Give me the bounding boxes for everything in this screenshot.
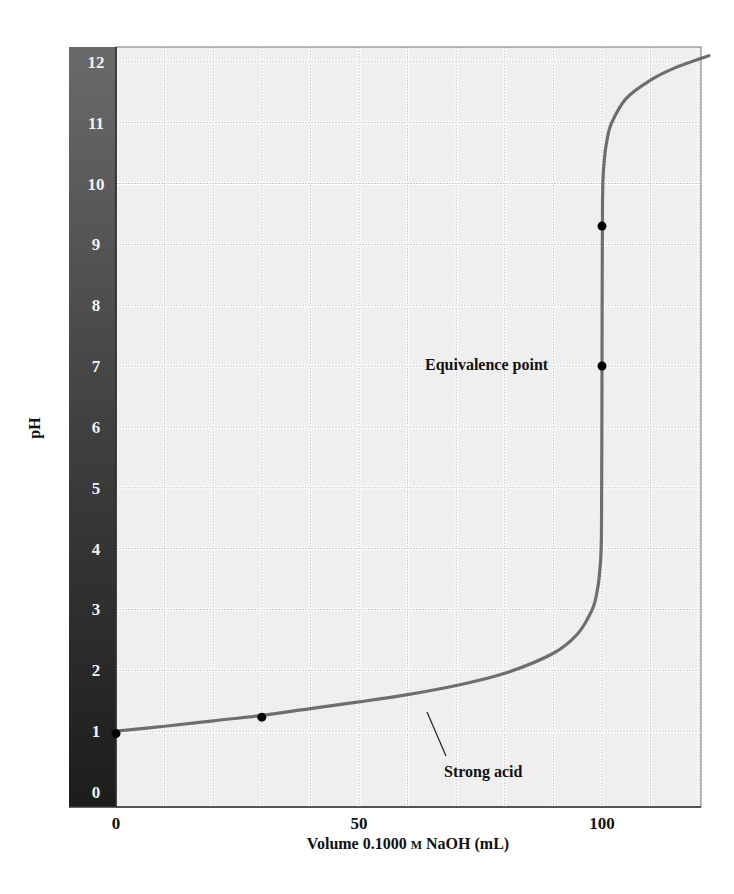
- y-tick-label: 0: [92, 783, 101, 802]
- data-point-marker: [257, 713, 266, 722]
- y-tick-label: 9: [92, 235, 101, 254]
- y-tick-label: 2: [92, 661, 101, 680]
- x-tick-label: 50: [351, 814, 368, 833]
- y-tick-label: 1: [92, 722, 101, 741]
- equivalence-point-label: Equivalence point: [425, 356, 549, 374]
- data-point-marker: [598, 222, 607, 231]
- titration-chart: 0123456789101112 050100 Equivalence poin…: [0, 0, 734, 894]
- equivalence-point-marker: [598, 362, 607, 371]
- y-tick-label: 11: [88, 114, 104, 133]
- y-tick-label: 10: [88, 175, 105, 194]
- x-tick-label: 0: [112, 814, 121, 833]
- y-tick-label: 8: [92, 296, 101, 315]
- y-axis-label: pH: [26, 417, 44, 439]
- y-tick-label: 6: [92, 418, 101, 437]
- y-tick-label: 5: [92, 479, 101, 498]
- strong-acid-label: Strong acid: [444, 763, 522, 781]
- y-tick-label: 4: [92, 540, 101, 559]
- data-point-marker: [112, 729, 121, 738]
- y-tick-label: 3: [92, 600, 101, 619]
- y-tick-label: 7: [92, 357, 101, 376]
- y-tick-label: 12: [88, 53, 105, 72]
- x-tick-labels: 050100: [112, 814, 615, 833]
- x-axis-label: Volume 0.1000 M NaOH (mL): [307, 835, 509, 853]
- x-tick-label: 100: [589, 814, 615, 833]
